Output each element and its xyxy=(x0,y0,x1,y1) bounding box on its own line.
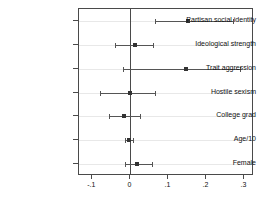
confidence-interval-cap xyxy=(140,114,141,119)
x-axis-tick-label: 0 xyxy=(117,181,141,189)
point-estimate-marker xyxy=(133,43,137,47)
confidence-interval-cap xyxy=(133,138,134,143)
confidence-interval-cap xyxy=(153,43,154,48)
y-axis-label: Female xyxy=(183,159,261,167)
y-axis-label: Partisan social identity xyxy=(183,16,261,24)
y-axis-tick xyxy=(73,163,78,164)
point-estimate-marker xyxy=(122,114,126,118)
x-axis-tick xyxy=(243,175,244,179)
confidence-interval-cap xyxy=(125,162,126,167)
point-estimate-marker xyxy=(135,162,139,166)
coefficient-plot: Partisan social identityIdeological stre… xyxy=(0,0,261,201)
y-axis-label: Hostile sexism xyxy=(183,88,261,96)
x-axis-tick-label: .2 xyxy=(193,181,217,189)
point-estimate-marker xyxy=(127,138,131,142)
y-axis-tick xyxy=(73,115,78,116)
confidence-interval-cap xyxy=(152,162,153,167)
confidence-interval-cap xyxy=(155,19,156,24)
x-axis-tick xyxy=(167,175,168,179)
x-axis-tick-label: -.1 xyxy=(79,181,103,189)
y-axis-label: Ideological strength xyxy=(183,40,261,48)
confidence-interval-cap xyxy=(155,91,156,96)
y-axis-label: College grad xyxy=(183,111,261,119)
y-axis-tick xyxy=(73,68,78,69)
x-axis-tick xyxy=(91,175,92,179)
x-axis-tick xyxy=(205,175,206,179)
x-axis-tick xyxy=(129,175,130,179)
confidence-interval-cap xyxy=(115,43,116,48)
x-axis-tick-label: .3 xyxy=(231,181,255,189)
y-axis-label: Trait aggression xyxy=(183,64,261,72)
y-axis-label: Age/10 xyxy=(183,135,261,143)
point-estimate-marker xyxy=(128,91,132,95)
y-axis-tick xyxy=(73,44,78,45)
confidence-interval-cap xyxy=(109,114,110,119)
y-axis-tick xyxy=(73,20,78,21)
confidence-interval-cap xyxy=(100,91,101,96)
y-axis-tick xyxy=(73,139,78,140)
y-axis-tick xyxy=(73,92,78,93)
confidence-interval-cap xyxy=(123,67,124,72)
x-axis-tick-label: .1 xyxy=(155,181,179,189)
